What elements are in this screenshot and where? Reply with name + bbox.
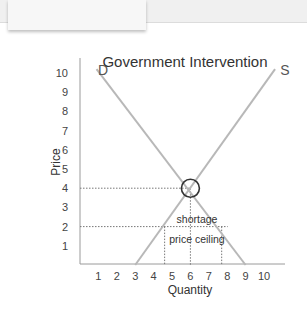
x-tick-label: 8: [224, 270, 230, 282]
y-tick-label: 4: [62, 182, 68, 194]
shortage-label: shortage: [177, 213, 218, 225]
supply-label: S: [280, 62, 289, 78]
x-tick-label: 3: [132, 270, 138, 282]
x-tick-labels: 12345678910: [95, 270, 270, 282]
price-ceiling-label: price ceiling: [169, 233, 225, 245]
demand-label: D: [98, 62, 108, 78]
x-tick-label: 5: [169, 270, 175, 282]
y-tick-label: 9: [62, 86, 68, 98]
y-tick-label: 8: [62, 105, 68, 117]
y-tick-label: 10: [56, 67, 68, 79]
y-axis-label: Price: [49, 148, 63, 176]
x-tick-label: 4: [151, 270, 157, 282]
y-tick-label: 3: [62, 201, 68, 213]
x-tick-label: 10: [258, 270, 270, 282]
x-tick-label: 2: [114, 270, 120, 282]
supply-demand-chart: 12345678910 12345678910 Government Inter…: [0, 0, 307, 319]
x-tick-label: 6: [187, 270, 193, 282]
x-tick-label: 9: [243, 270, 249, 282]
y-tick-label: 1: [62, 240, 68, 252]
x-axis-label: Quantity: [168, 283, 213, 297]
y-tick-label: 7: [62, 125, 68, 137]
x-tick-label: 1: [95, 270, 101, 282]
guide-lines: [80, 188, 228, 265]
y-tick-label: 2: [62, 221, 68, 233]
chart-title: Government Intervention: [102, 53, 267, 70]
x-tick-label: 7: [206, 270, 212, 282]
